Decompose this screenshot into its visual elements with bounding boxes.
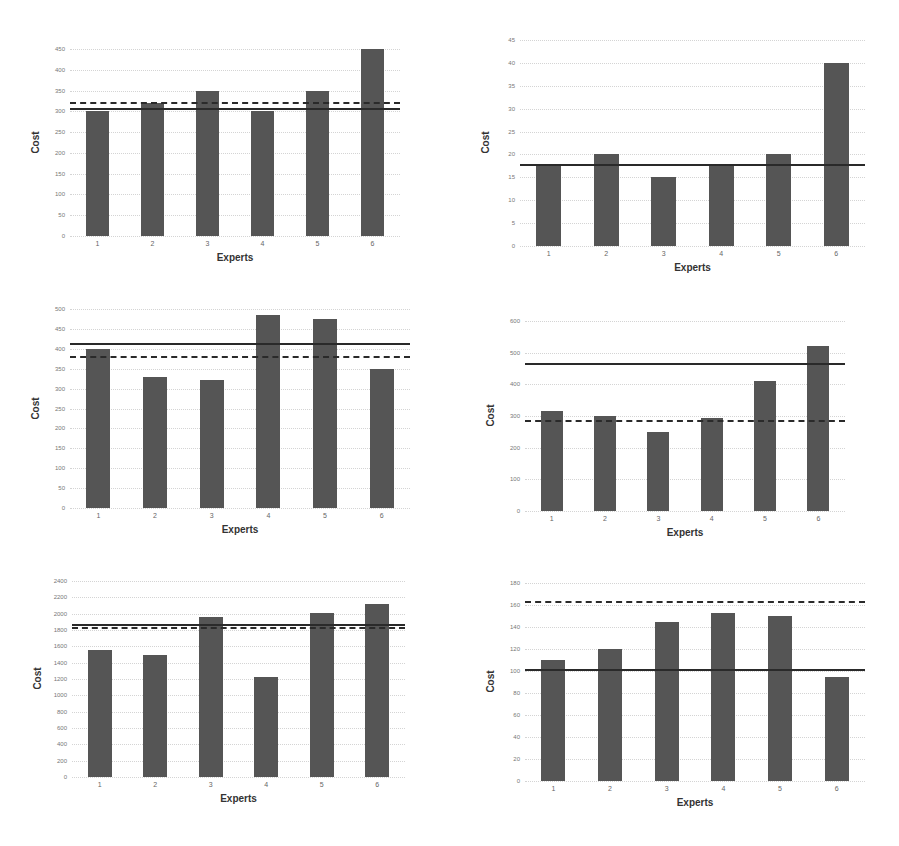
gridline — [70, 468, 410, 469]
bar-expert-6[interactable] — [825, 677, 849, 782]
x-axis-label: Experts — [70, 252, 400, 263]
gridline — [70, 91, 400, 92]
x-tick-label: 2 — [595, 515, 615, 522]
bar-expert-5[interactable] — [754, 381, 776, 511]
x-tick-label: 6 — [808, 515, 828, 522]
gridline — [72, 777, 405, 778]
y-tick-label: 120 — [494, 646, 520, 652]
bar-expert-2[interactable] — [143, 377, 167, 508]
bar-expert-1[interactable] — [541, 411, 563, 511]
y-tick-label: 150 — [39, 445, 65, 451]
gridline — [520, 40, 865, 41]
y-tick-label: 400 — [39, 346, 65, 352]
bar-expert-4[interactable] — [251, 111, 274, 236]
gridline — [525, 737, 865, 738]
x-tick-label: 1 — [543, 785, 563, 792]
gridline — [520, 223, 865, 224]
gridline — [72, 630, 405, 631]
x-tick-label: 2 — [145, 781, 165, 788]
y-tick-label: 200 — [39, 425, 65, 431]
bar-expert-3[interactable] — [199, 617, 223, 777]
bar-expert-1[interactable] — [88, 650, 112, 777]
bar-expert-1[interactable] — [86, 111, 109, 236]
y-tick-label: 30 — [489, 106, 515, 112]
x-tick-label: 6 — [367, 781, 387, 788]
x-axis-label: Experts — [72, 793, 405, 804]
y-tick-label: 0 — [494, 778, 520, 784]
gridline — [72, 695, 405, 696]
bar-expert-1[interactable] — [86, 349, 110, 508]
x-tick-label: 4 — [713, 785, 733, 792]
x-axis-label: Experts — [520, 262, 865, 273]
x-tick-label: 6 — [372, 512, 392, 519]
bar-expert-6[interactable] — [807, 346, 829, 511]
x-tick-label: 1 — [88, 240, 108, 247]
bar-expert-4[interactable] — [254, 677, 278, 777]
y-tick-label: 300 — [494, 413, 520, 419]
bar-expert-5[interactable] — [310, 613, 334, 777]
bar-expert-2[interactable] — [594, 416, 616, 511]
bar-expert-1[interactable] — [536, 164, 561, 246]
gridline — [70, 488, 410, 489]
y-axis-label: Cost — [480, 131, 491, 153]
x-tick-label: 2 — [143, 240, 163, 247]
x-tick-label: 2 — [600, 785, 620, 792]
bar-expert-5[interactable] — [766, 154, 791, 246]
bar-expert-6[interactable] — [361, 49, 384, 236]
y-tick-label: 160 — [494, 602, 520, 608]
gridline — [70, 132, 400, 133]
bar-expert-1[interactable] — [541, 660, 565, 781]
bar-expert-3[interactable] — [200, 380, 224, 508]
gridline — [70, 329, 410, 330]
y-tick-label: 500 — [39, 306, 65, 312]
y-tick-label: 1200 — [41, 676, 67, 682]
y-tick-label: 1800 — [41, 627, 67, 633]
bar-expert-2[interactable] — [594, 154, 619, 246]
gridline — [70, 309, 410, 310]
bar-expert-4[interactable] — [711, 613, 735, 781]
gridline — [70, 236, 400, 237]
x-tick-label: 3 — [202, 512, 222, 519]
y-tick-label: 250 — [39, 406, 65, 412]
bar-expert-5[interactable] — [313, 319, 337, 508]
gridline — [525, 715, 865, 716]
plot-area — [72, 581, 405, 777]
bar-expert-5[interactable] — [768, 616, 792, 781]
x-tick-label: 5 — [755, 515, 775, 522]
solid-reference-line — [525, 363, 845, 365]
bar-expert-2[interactable] — [143, 655, 167, 778]
y-tick-label: 100 — [39, 465, 65, 471]
gridline — [70, 428, 410, 429]
x-tick-label: 5 — [769, 250, 789, 257]
bar-expert-3[interactable] — [651, 177, 676, 246]
y-tick-label: 300 — [39, 108, 65, 114]
bar-expert-6[interactable] — [370, 369, 394, 508]
bar-expert-4[interactable] — [701, 418, 723, 511]
bar-expert-3[interactable] — [196, 91, 219, 236]
bar-expert-4[interactable] — [709, 164, 734, 246]
y-axis-label: Cost — [485, 404, 496, 426]
gridline — [72, 646, 405, 647]
gridline — [72, 581, 405, 582]
y-tick-label: 40 — [489, 60, 515, 66]
y-tick-label: 0 — [39, 505, 65, 511]
x-tick-label: 4 — [702, 515, 722, 522]
bar-expert-3[interactable] — [647, 432, 669, 511]
bar-expert-6[interactable] — [824, 63, 849, 246]
bar-expert-6[interactable] — [365, 604, 389, 777]
gridline — [70, 349, 410, 350]
y-tick-label: 50 — [39, 212, 65, 218]
gridline — [72, 728, 405, 729]
y-tick-label: 350 — [39, 88, 65, 94]
y-tick-label: 200 — [39, 150, 65, 156]
gridline — [525, 693, 865, 694]
bar-expert-3[interactable] — [655, 622, 679, 782]
gridline — [520, 63, 865, 64]
solid-reference-line — [70, 108, 400, 110]
bar-expert-5[interactable] — [306, 91, 329, 236]
y-tick-label: 100 — [39, 191, 65, 197]
y-tick-label: 2200 — [41, 594, 67, 600]
x-tick-label: 5 — [315, 512, 335, 519]
bar-expert-2[interactable] — [141, 103, 164, 236]
gridline — [70, 448, 410, 449]
